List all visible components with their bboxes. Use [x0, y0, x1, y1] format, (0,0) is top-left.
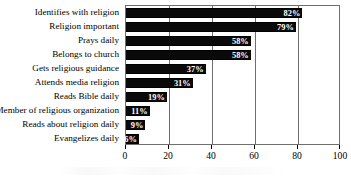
bar: 82%	[126, 8, 302, 18]
bar-value-label: 31%	[174, 79, 191, 88]
bar: 9%	[126, 120, 145, 130]
bar: 37%	[126, 64, 206, 74]
bar-value-label: 9%	[131, 121, 144, 130]
category-label: Gets religious guidance	[32, 61, 119, 75]
bar-value-label: 58%	[232, 37, 249, 46]
bar: 31%	[126, 78, 193, 88]
category-axis-labels: Identifies with religionReligion importa…	[0, 5, 122, 145]
bar-value-label: 79%	[277, 23, 294, 32]
bar-value-label: 19%	[148, 93, 165, 102]
category-label: Reads Bible daily	[54, 89, 119, 103]
x-tick-mark	[254, 145, 255, 149]
category-label: Prays daily	[78, 33, 119, 47]
x-tick-label: 0	[123, 150, 128, 162]
category-label: Religion important	[49, 19, 119, 33]
bar: 79%	[126, 22, 296, 32]
category-label: Reads about religion daily	[22, 117, 119, 131]
x-tick-label: 60	[249, 150, 259, 162]
x-tick-label: 20	[163, 150, 173, 162]
gridline	[298, 6, 299, 144]
category-label: Member of religious organization	[0, 103, 119, 117]
category-label: Attends media religion	[35, 75, 119, 89]
category-label: Belongs to church	[52, 47, 119, 61]
bar: 19%	[126, 92, 167, 102]
x-tick-mark	[297, 145, 298, 149]
bar-value-label: 37%	[187, 65, 204, 74]
x-tick-mark	[339, 145, 340, 149]
bar: 6%	[126, 134, 139, 144]
category-label: Evangelizes daily	[54, 131, 119, 145]
plot-area: 82%79%58%58%37%31%19%11%9%6%	[125, 5, 340, 145]
bar-chart: Identifies with religionReligion importa…	[0, 0, 351, 177]
x-tick-mark	[168, 145, 169, 149]
bar: 58%	[126, 36, 251, 46]
caption-artifact	[60, 167, 290, 175]
bar: 11%	[126, 106, 150, 116]
x-tick-mark	[125, 145, 126, 149]
x-tick-mark	[211, 145, 212, 149]
bar-value-label: 58%	[232, 51, 249, 60]
x-tick-label: 40	[206, 150, 216, 162]
bar-value-label: 6%	[124, 135, 137, 144]
x-axis-tick-labels: 020406080100	[125, 150, 340, 164]
x-tick-label: 80	[292, 150, 302, 162]
bar-value-label: 11%	[131, 107, 147, 116]
category-label: Identifies with religion	[35, 5, 119, 19]
bar-value-label: 82%	[284, 9, 301, 18]
x-tick-label: 100	[333, 150, 347, 162]
bar: 58%	[126, 50, 251, 60]
